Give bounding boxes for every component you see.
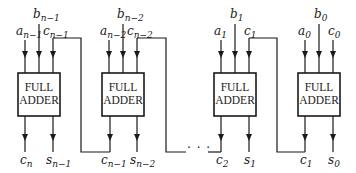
full-adder-label-line2: ADDER <box>214 94 256 107</box>
input-b-label: b1 <box>230 8 243 23</box>
carry-wire-3 <box>249 38 305 152</box>
full-adder-label-4: FULL ADDER <box>298 81 340 107</box>
output-s-label: sn−1 <box>46 154 71 169</box>
output-s-label: sn−2 <box>130 154 155 169</box>
input-a-label: an−1 <box>16 25 42 40</box>
output-c-label: c2 <box>216 154 228 169</box>
input-a-label: an−2 <box>100 25 126 40</box>
output-c-label: cn−1 <box>101 154 127 169</box>
full-adder-label-3: FULL ADDER <box>214 81 256 107</box>
output-s-label: s0 <box>328 154 340 169</box>
stage-1-outputs <box>22 116 56 152</box>
full-adder-label-line2: ADDER <box>298 94 340 107</box>
input-b-label: bn−2 <box>117 8 144 23</box>
full-adder-label-line1: FULL <box>18 81 60 94</box>
stage-2-outputs <box>107 116 140 152</box>
full-adder-label-line1: FULL <box>298 81 340 94</box>
full-adder-label-line2: ADDER <box>102 94 144 107</box>
input-c-label: cn−2 <box>127 25 153 40</box>
full-adder-label-line2: ADDER <box>18 94 60 107</box>
input-c-label: c0 <box>328 25 340 40</box>
full-adder-label-line1: FULL <box>214 81 256 94</box>
ripple-carry-adder-diagram: FULL ADDER FULL ADDER FULL ADDER FULL AD… <box>0 0 356 173</box>
output-c-label: cn <box>20 154 33 169</box>
input-c-label: c1 <box>244 25 256 40</box>
input-a-label: a0 <box>298 25 311 40</box>
input-b-label: bn−1 <box>33 8 60 23</box>
full-adder-label-2: FULL ADDER <box>102 81 144 107</box>
input-a-label: a1 <box>214 25 227 40</box>
input-c-label: cn−1 <box>43 25 69 40</box>
output-c-label: c1 <box>300 154 312 169</box>
stage-4-outputs <box>302 116 336 152</box>
full-adder-label-1: FULL ADDER <box>18 81 60 107</box>
stage-3-outputs <box>218 116 252 152</box>
full-adder-label-line1: FULL <box>102 81 144 94</box>
ellipsis: · · · <box>187 141 211 155</box>
output-s-label: s1 <box>244 154 256 169</box>
input-b-label: b0 <box>314 8 327 23</box>
